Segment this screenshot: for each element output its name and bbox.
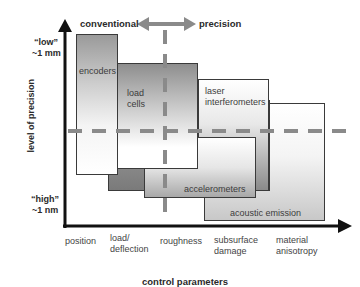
- y-bottom-label-line2: ~1 nm: [32, 205, 58, 216]
- y-top-label-line2: ~1 mm: [32, 48, 61, 59]
- x-tick-material-line2: anisotropy: [276, 246, 318, 257]
- y-top-label-line1: “low”: [34, 37, 58, 48]
- y-axis-arrow-icon: [58, 19, 72, 32]
- arrow-left-icon: [137, 17, 149, 31]
- precision-label: precision: [199, 18, 241, 29]
- x-tick-roughness: roughness: [160, 236, 202, 247]
- conventional-label: conventional: [80, 18, 139, 29]
- x-tick-subsurface-line2: damage: [214, 246, 247, 257]
- x-tick-material-line1: material: [276, 235, 308, 246]
- x-axis-title: control parameters: [142, 276, 228, 287]
- x-tick-subsurface-line1: subsurface: [214, 235, 258, 246]
- y-axis-title: level of precision: [26, 83, 37, 153]
- x-tick-position: position: [65, 236, 96, 247]
- x-tick-load-line2: deflection: [110, 244, 149, 255]
- x-tick-load-line1: load/: [110, 233, 130, 244]
- x-axis-arrow-icon: [338, 219, 352, 233]
- arrow-right-icon: [184, 17, 196, 31]
- y-bottom-label-line1: “high”: [31, 194, 59, 205]
